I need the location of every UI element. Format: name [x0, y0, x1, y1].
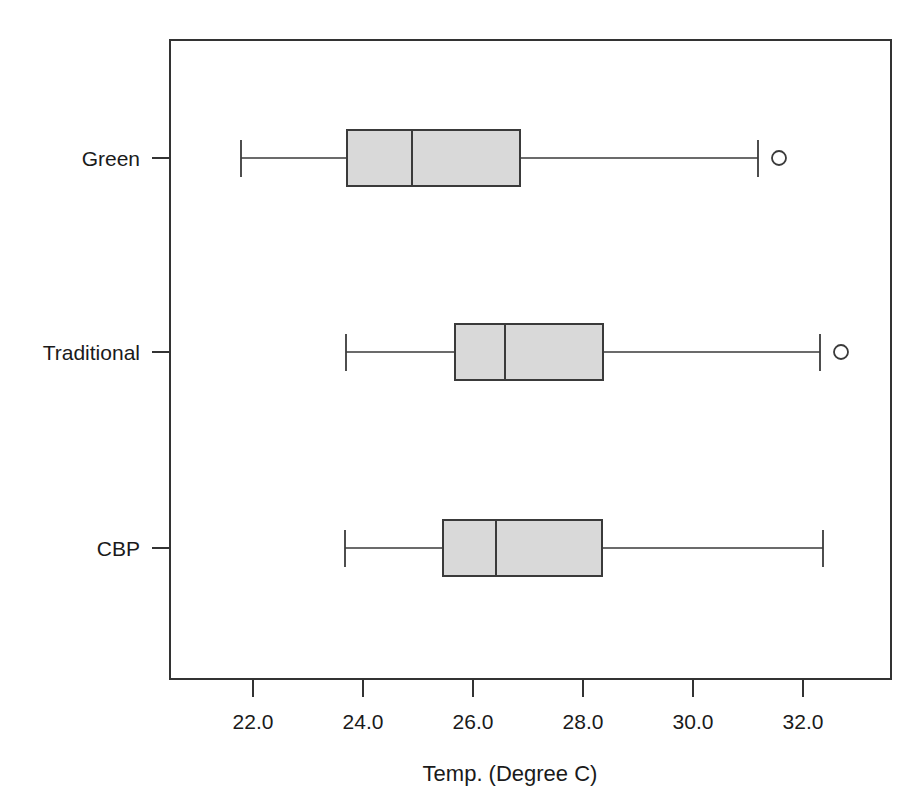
boxplot-traditional: [346, 324, 848, 380]
green-outlier-point: [772, 151, 786, 165]
x-tick-label-26: 26.0: [453, 710, 494, 733]
x-tick-label-32: 32.0: [783, 710, 824, 733]
boxplot-green: [241, 130, 786, 186]
x-tick-label-30: 30.0: [673, 710, 714, 733]
x-tick-label-24: 24.0: [343, 710, 384, 733]
x-tick-label-22: 22.0: [233, 710, 274, 733]
green-box: [347, 130, 520, 186]
x-tick-label-28: 28.0: [563, 710, 604, 733]
boxplot-figure: 22.0 24.0 26.0 28.0 30.0 32.0 Temp. (Deg…: [0, 0, 914, 808]
cbp-box: [443, 520, 602, 576]
x-axis-tick-labels: 22.0 24.0 26.0 28.0 30.0 32.0: [233, 710, 824, 733]
x-axis-ticks: [253, 679, 803, 697]
category-label-green: Green: [82, 147, 140, 170]
category-label-traditional: Traditional: [43, 341, 140, 364]
boxplot-cbp: [345, 520, 823, 576]
boxplot-canvas: 22.0 24.0 26.0 28.0 30.0 32.0 Temp. (Deg…: [0, 0, 914, 808]
traditional-outlier-point: [834, 345, 848, 359]
y-axis-ticks: [152, 158, 170, 548]
y-axis-category-labels: Green Traditional CBP: [43, 147, 140, 560]
x-axis-title: Temp. (Degree C): [423, 761, 598, 786]
category-label-cbp: CBP: [97, 537, 140, 560]
traditional-box: [455, 324, 603, 380]
